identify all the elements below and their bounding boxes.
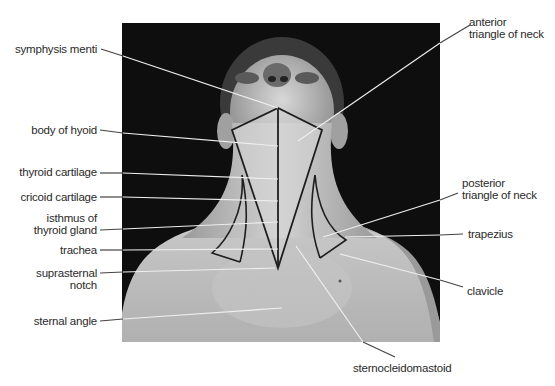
anatomy-figure: symphysis menti body of hyoid thyroid ca…: [0, 0, 555, 386]
label-body-of-hyoid: body of hyoid: [31, 124, 97, 136]
label-trachea: trachea: [60, 244, 97, 256]
label-text: cricoid cartilage: [21, 191, 98, 203]
label-thyroid-cartilage: thyroid cartilage: [19, 166, 97, 178]
label-posterior-triangle-of-neck: posterior triangle of neck: [462, 177, 537, 201]
label-text: body of hyoid: [31, 124, 97, 136]
label-isthmus-of-thyroid-gland: isthmus of thyroid gland: [34, 212, 97, 236]
label-text: posterior: [462, 177, 537, 189]
label-text: trachea: [60, 244, 97, 256]
label-trapezius: trapezius: [468, 228, 513, 240]
label-cricoid-cartilage: cricoid cartilage: [21, 191, 98, 203]
label-text: thyroid gland: [34, 224, 97, 236]
label-symphysis-menti: symphysis menti: [15, 43, 97, 55]
label-text: suprasternal: [36, 267, 97, 279]
label-text: symphysis menti: [15, 43, 97, 55]
label-text: thyroid cartilage: [19, 166, 97, 178]
label-text: anterior: [469, 16, 544, 28]
label-text: sternal angle: [34, 315, 97, 327]
label-clavicle: clavicle: [467, 285, 503, 297]
label-anterior-triangle-of-neck: anterior triangle of neck: [469, 16, 544, 40]
leader-lines-right: [296, 25, 470, 357]
label-sternocleidomastoid: sternocleidomastoid: [353, 362, 451, 374]
anterior-triangle-outline: [232, 108, 322, 268]
label-text: sternocleidomastoid: [353, 362, 451, 374]
label-text: isthmus of: [34, 212, 97, 224]
label-text: trapezius: [468, 228, 513, 240]
label-text: notch: [36, 279, 97, 291]
label-text: triangle of neck: [462, 189, 537, 201]
label-text: clavicle: [467, 285, 503, 297]
label-suprasternal-notch: suprasternal notch: [36, 267, 97, 291]
label-sternal-angle: sternal angle: [34, 315, 97, 327]
label-text: triangle of neck: [469, 28, 544, 40]
